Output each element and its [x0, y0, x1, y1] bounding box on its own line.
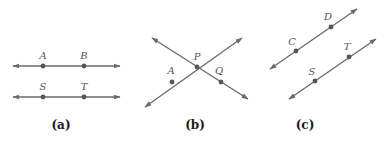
point-p — [195, 65, 200, 70]
panel-c: C D S T (c) — [270, 9, 376, 132]
label-a: A — [166, 65, 174, 76]
point-q — [219, 80, 224, 85]
panel-b: P A Q (b) — [145, 38, 248, 132]
point-d — [329, 25, 334, 30]
panel-a: A B S T (a) — [13, 50, 120, 132]
label-t: T — [81, 81, 89, 92]
label-s: S — [40, 81, 47, 92]
label-b: B — [79, 50, 87, 61]
geometry-figure: A B S T (a) P A Q (b) C D S T (c) — [0, 0, 390, 143]
point-t — [82, 95, 87, 100]
label-t: T — [344, 41, 352, 52]
line-cd — [270, 9, 357, 69]
caption-a: (a) — [51, 118, 70, 132]
point-b — [82, 64, 87, 69]
caption-c: (c) — [296, 118, 315, 132]
label-p: P — [193, 51, 201, 62]
point-s — [313, 79, 318, 84]
label-a: A — [38, 50, 46, 61]
point-a — [170, 80, 175, 85]
caption-b: (b) — [185, 118, 205, 132]
point-s — [41, 95, 46, 100]
label-c: C — [288, 36, 296, 47]
line-ap — [145, 38, 242, 107]
point-t — [347, 55, 352, 60]
line-st — [289, 39, 376, 99]
point-a — [41, 64, 46, 69]
label-s: S — [309, 66, 316, 77]
point-c — [294, 49, 299, 54]
label-q: Q — [215, 65, 223, 76]
label-d: D — [323, 11, 332, 22]
